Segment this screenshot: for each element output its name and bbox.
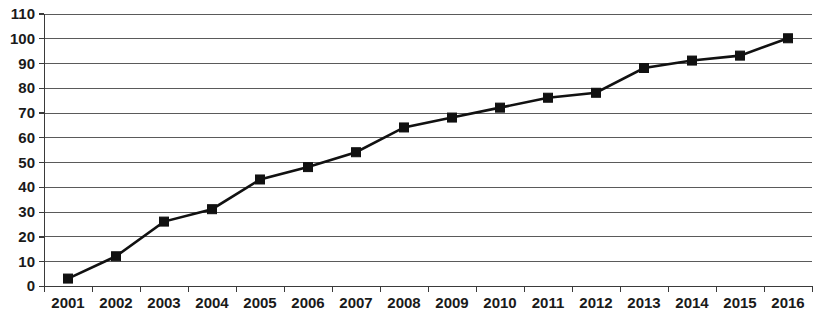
y-axis-tick-label: 10: [18, 253, 35, 270]
y-axis-tick-label: 40: [18, 178, 35, 195]
y-axis-tick-label: 90: [18, 55, 35, 72]
y-axis-tick-label: 80: [18, 79, 35, 96]
data-point-marker: [784, 34, 793, 43]
chart-canvas: 0102030405060708090100110 20012002200320…: [0, 0, 816, 311]
data-point-marker: [640, 64, 649, 73]
x-axis-tick-label: 2002: [99, 294, 132, 311]
x-axis-tick-label: 2005: [243, 294, 276, 311]
x-axis-tick-label: 2011: [532, 294, 565, 311]
data-point-marker: [400, 123, 409, 132]
y-axis-tick-label: 30: [18, 203, 35, 220]
y-axis-tick-label: 70: [18, 104, 35, 121]
y-axis-tick-label: 0: [27, 277, 35, 294]
x-axis-tick-label: 2007: [339, 294, 372, 311]
x-axis-tick-labels: 2001200220032004200520062007200820092010…: [51, 294, 804, 311]
data-point-marker: [160, 217, 169, 226]
y-axis-group: 0102030405060708090100110: [10, 5, 45, 295]
x-axis-tick-label: 2003: [147, 294, 180, 311]
y-axis-tick-labels: 0102030405060708090100110: [10, 5, 35, 295]
x-axis-tick-label: 2001: [51, 294, 84, 311]
x-axis-tick-label: 2010: [483, 294, 516, 311]
data-point-marker: [736, 51, 745, 60]
data-point-marker: [544, 93, 553, 102]
data-point-marker: [304, 163, 313, 172]
x-axis-tick-label: 2013: [627, 294, 660, 311]
gridlines-group: [44, 14, 812, 287]
x-axis-tick-label: 2006: [291, 294, 324, 311]
x-axis-group: 2001200220032004200520062007200820092010…: [44, 286, 813, 311]
x-axis-tick-label: 2008: [387, 294, 420, 311]
x-axis-tick-label: 2009: [435, 294, 468, 311]
data-point-marker: [688, 56, 697, 65]
data-series-group: [64, 34, 793, 283]
x-axis-tick-label: 2015: [723, 294, 756, 311]
series-line: [68, 38, 788, 278]
y-axis-tick-label: 50: [18, 154, 35, 171]
x-axis-tick-label: 2016: [771, 294, 804, 311]
data-point-marker: [352, 148, 361, 157]
data-point-marker: [208, 205, 217, 214]
x-axis-tick-label: 2004: [195, 294, 229, 311]
series-markers: [64, 34, 793, 283]
x-axis-tick-label: 2014: [675, 294, 709, 311]
data-point-marker: [448, 113, 457, 122]
data-point-marker: [592, 88, 601, 97]
y-axis-tick-label: 60: [18, 129, 35, 146]
data-point-marker: [64, 274, 73, 283]
data-point-marker: [256, 175, 265, 184]
line-chart: 0102030405060708090100110 20012002200320…: [0, 0, 816, 311]
y-axis-tick-label: 110: [11, 5, 35, 22]
x-axis-tick-label: 2012: [579, 294, 612, 311]
y-tick-marks: [39, 14, 44, 287]
y-axis-tick-label: 100: [10, 30, 35, 47]
data-point-marker: [496, 103, 505, 112]
data-point-marker: [112, 252, 121, 261]
y-axis-tick-label: 20: [18, 228, 35, 245]
